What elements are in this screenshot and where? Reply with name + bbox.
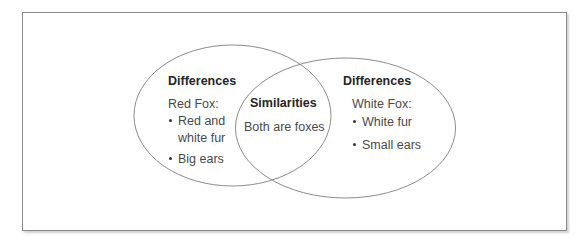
- left-item-1-line-2: white fur: [178, 131, 225, 145]
- right-subject-label: White Fox:: [352, 97, 412, 111]
- left-item-2: Big ears: [178, 152, 224, 166]
- bullet-icon: [353, 120, 356, 123]
- right-item-1: White fur: [362, 115, 412, 129]
- right-item-2: Small ears: [362, 138, 421, 152]
- left-circle-red-fox: [134, 45, 331, 186]
- left-subject-label: Red Fox:: [168, 97, 219, 111]
- bullet-icon: [169, 157, 172, 160]
- left-differences-heading: Differences: [168, 74, 236, 88]
- bullet-icon: [353, 143, 356, 146]
- right-differences-heading: Differences: [343, 74, 411, 88]
- similarities-text: Both are foxes: [244, 120, 325, 134]
- bullet-icon: [169, 119, 172, 122]
- left-item-1-line-1: Red and: [178, 114, 225, 128]
- similarities-heading: Similarities: [250, 96, 317, 110]
